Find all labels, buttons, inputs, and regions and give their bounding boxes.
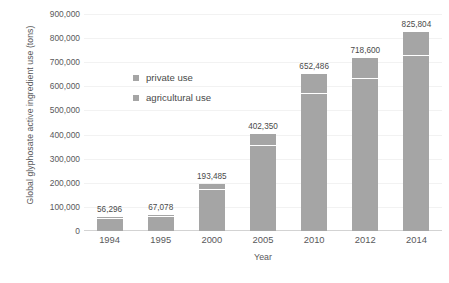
bar-segment-private-use[interactable] (352, 58, 378, 79)
bar-segment-agricultural-use[interactable] (148, 217, 174, 231)
stacked-bar[interactable] (250, 134, 276, 231)
y-axis-tick-label: 400,000 (28, 130, 80, 140)
bar-value-label: 56,296 (97, 205, 122, 214)
stacked-bar[interactable] (199, 184, 225, 231)
bar-group[interactable]: 718,600 (352, 14, 378, 231)
x-axis-title: Year (84, 252, 442, 262)
bar-segment-agricultural-use[interactable] (403, 56, 429, 231)
x-axis-tick-label: 1994 (99, 234, 120, 245)
y-axis-tick-label: 800,000 (28, 33, 80, 43)
bar-segment-agricultural-use[interactable] (301, 94, 327, 231)
bar-value-label: 67,078 (148, 203, 173, 212)
bar-group[interactable]: 67,078 (148, 14, 174, 231)
bar-segment-private-use[interactable] (403, 32, 429, 56)
bar-series-container: 56,29667,078193,485402,350652,486718,600… (84, 14, 442, 231)
stacked-bar[interactable] (97, 217, 123, 231)
legend-item[interactable]: agricultural use (133, 92, 211, 103)
stacked-bar-chart: Global glyphosate active ingredient use … (0, 0, 449, 283)
legend-item[interactable]: private use (133, 72, 211, 83)
y-axis-tick-label: 500,000 (28, 105, 80, 115)
x-axis-tick-label: 2005 (253, 234, 274, 245)
bar-value-label: 825,804 (402, 20, 432, 29)
bar-segment-agricultural-use[interactable] (250, 146, 276, 231)
chart-legend: private useagricultural use (133, 72, 211, 112)
legend-label: agricultural use (146, 92, 211, 103)
bar-group[interactable]: 402,350 (250, 14, 276, 231)
y-axis-tick-label: 600,000 (28, 81, 80, 91)
stacked-bar[interactable] (352, 58, 378, 231)
bar-group[interactable]: 825,804 (403, 14, 429, 231)
bar-group[interactable]: 56,296 (97, 14, 123, 231)
x-axis-tick-label: 2014 (406, 234, 427, 245)
bar-value-label: 402,350 (248, 122, 278, 131)
bar-value-label: 652,486 (299, 62, 329, 71)
y-axis-tick-label: 300,000 (28, 154, 80, 164)
x-axis-tick-label: 1995 (150, 234, 171, 245)
y-axis-tick-labels: 0100,000200,000300,000400,000500,000600,… (28, 14, 80, 231)
x-axis-tick-label: 2010 (304, 234, 325, 245)
plot-area: 56,29667,078193,485402,350652,486718,600… (84, 14, 442, 231)
y-axis-tick-label: 100,000 (28, 202, 80, 212)
y-axis-tick-label: 0 (28, 226, 80, 236)
legend-swatch-icon (133, 95, 139, 101)
bar-value-label: 718,600 (350, 46, 380, 55)
x-axis-tick-label: 2012 (355, 234, 376, 245)
y-axis-tick-label: 200,000 (28, 178, 80, 188)
bar-group[interactable]: 193,485 (199, 14, 225, 231)
stacked-bar[interactable] (301, 74, 327, 231)
x-axis-tick-label: 2000 (201, 234, 222, 245)
bar-value-label: 193,485 (197, 172, 227, 181)
y-axis-tick-label: 900,000 (28, 9, 80, 19)
legend-swatch-icon (133, 75, 139, 81)
bar-segment-private-use[interactable] (301, 74, 327, 94)
bar-group[interactable]: 652,486 (301, 14, 327, 231)
stacked-bar[interactable] (403, 32, 429, 231)
bar-segment-agricultural-use[interactable] (352, 79, 378, 231)
x-axis-tick-labels: 1994199520002005201020122014 (84, 234, 442, 250)
bar-segment-private-use[interactable] (250, 134, 276, 146)
legend-label: private use (146, 72, 193, 83)
stacked-bar[interactable] (148, 215, 174, 231)
y-axis-tick-label: 700,000 (28, 57, 80, 67)
bar-segment-agricultural-use[interactable] (199, 190, 225, 231)
bar-segment-agricultural-use[interactable] (97, 219, 123, 231)
